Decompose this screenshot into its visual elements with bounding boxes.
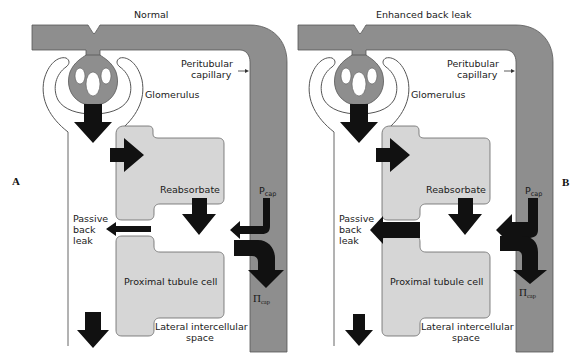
back-leak-label-1: Passive bbox=[339, 213, 374, 224]
filtration-arrow bbox=[74, 104, 112, 143]
reabsorbate-label: Reabsorbate bbox=[426, 184, 486, 195]
lis-label-line1: Lateral intercellular bbox=[155, 321, 248, 332]
back-leak-label-2: back bbox=[73, 224, 96, 235]
upper-tubule-cell bbox=[382, 126, 490, 220]
outflow-arrow bbox=[77, 312, 109, 348]
cell-label: Proximal tubule cell bbox=[124, 276, 217, 287]
panel-a-letter: A bbox=[12, 175, 20, 187]
back-leak-arrow bbox=[106, 222, 151, 236]
capillary-label-line1: Peritubular bbox=[181, 58, 233, 69]
renal-diagram: Normal Peritubular capillary Glomerulus … bbox=[0, 0, 579, 362]
panel-b-letter: B bbox=[562, 176, 570, 188]
outflow-arrow bbox=[345, 314, 373, 346]
lis-label-line2: space bbox=[452, 332, 480, 343]
back-leak-label-1: Passive bbox=[73, 213, 108, 224]
glomerulus-label: Glomerulus bbox=[411, 89, 465, 100]
capillary-label-line1: Peritubular bbox=[447, 58, 499, 69]
cell-label: Proximal tubule cell bbox=[390, 276, 483, 287]
glomerulus-label: Glomerulus bbox=[145, 89, 199, 100]
back-leak-label-2: back bbox=[339, 224, 362, 235]
filtration-arrow bbox=[340, 104, 378, 143]
panel-a: Normal Peritubular capillary Glomerulus … bbox=[12, 9, 287, 352]
back-leak-label-3: leak bbox=[73, 235, 93, 246]
upper-tubule-cell bbox=[116, 126, 224, 220]
reabsorbate-label: Reabsorbate bbox=[160, 184, 220, 195]
back-leak-label-3: leak bbox=[339, 235, 359, 246]
capillary-label-line2: capillary bbox=[191, 69, 232, 80]
panel-a-title: Normal bbox=[134, 9, 168, 20]
lis-label-line1: Lateral intercellular bbox=[421, 321, 514, 332]
panel-b-title: Enhanced back leak bbox=[376, 9, 472, 20]
capillary-label-line2: capillary bbox=[457, 69, 498, 80]
lis-label-line2: space bbox=[186, 332, 214, 343]
panel-b: Enhanced back leak Peritubular capillary… bbox=[298, 9, 553, 352]
